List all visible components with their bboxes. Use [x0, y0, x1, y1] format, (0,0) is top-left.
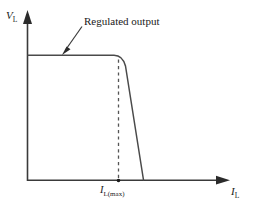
- regulated-output-figure: VL IL IL(max) Regulated output: [0, 0, 253, 206]
- y-axis-symbol: V: [6, 9, 13, 21]
- regulated-output-annotation: Regulated output: [84, 15, 159, 27]
- x-axis-subscript: L: [235, 191, 240, 200]
- x-axis-arrowhead: [216, 176, 230, 185]
- annotation-arrow-shaft: [66, 27, 83, 51]
- y-axis-label: VL: [6, 10, 17, 21]
- imax-dot-marker: [117, 179, 121, 183]
- plot-canvas: [0, 0, 253, 206]
- imax-subscript: L(max): [104, 190, 125, 198]
- y-axis-subscript: L: [13, 15, 18, 24]
- x-axis-label: IL: [231, 186, 239, 197]
- y-axis-arrowhead: [23, 10, 32, 24]
- load-characteristic-curve: [28, 55, 144, 180]
- imax-axis-label: IL(max): [100, 185, 125, 196]
- annotation-arrowhead: [62, 46, 71, 55]
